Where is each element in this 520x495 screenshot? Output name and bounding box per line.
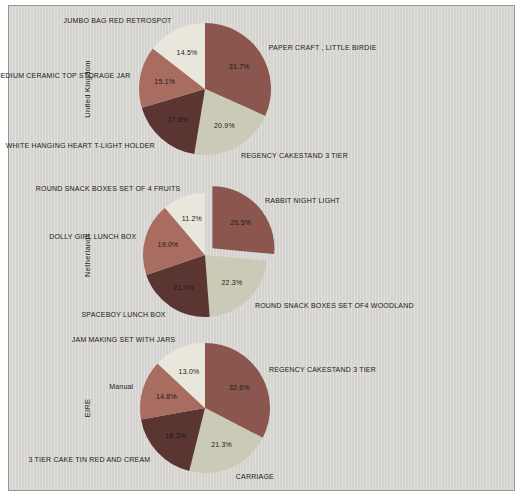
- pie-charts-svg: 31.7%PAPER CRAFT , LITTLE BIRDIE20.9%REG…: [0, 0, 520, 495]
- pct-label-netherlands-dolly-girl-lunch-box: 19.0%: [158, 241, 179, 248]
- pie-chart-netherlands: 26.5%RABBIT NIGHT LIGHT22.3%ROUND SNACK …: [36, 185, 414, 318]
- pct-label-netherlands-rabbit-night-light: 26.5%: [230, 219, 251, 226]
- product-label-united-kingdom-medium-ceramic-top-storage-jar: MEDIUM CERAMIC TOP STORAGE JAR: [0, 72, 130, 79]
- pct-label-united-kingdom-paper-craft-little-birdie: 31.7%: [229, 63, 250, 70]
- product-label-netherlands-round-snack-boxes-set-of4-woodland: ROUND SNACK BOXES SET OF4 WOODLAND: [255, 302, 414, 309]
- product-label-eire-manual: Manual: [109, 383, 133, 390]
- pie-chart-united-kingdom: 31.7%PAPER CRAFT , LITTLE BIRDIE20.9%REG…: [0, 17, 377, 159]
- pct-label-united-kingdom-medium-ceramic-top-storage-jar: 15.1%: [154, 78, 175, 85]
- product-label-eire-jam-making-set-with-jars: JAM MAKING SET WITH JARS: [72, 336, 176, 343]
- pct-label-eire-3-tier-cake-tin-red-and-cream: 18.3%: [165, 432, 186, 439]
- product-label-united-kingdom-regency-cakestand-3-tier: REGENCY CAKESTAND 3 TIER: [241, 152, 348, 159]
- pct-label-netherlands-spaceboy-lunch-box: 21.0%: [173, 284, 194, 291]
- pct-label-netherlands-round-snack-boxes-set-of4-woodland: 22.3%: [221, 279, 242, 286]
- country-axis-label-united-kingdom: United Kingdom: [83, 60, 92, 118]
- country-axis-label-eire: EIRE: [83, 399, 92, 418]
- product-label-netherlands-dolly-girl-lunch-box: DOLLY GIRL LUNCH BOX: [49, 233, 136, 240]
- pct-label-eire-manual: 14.8%: [156, 393, 177, 400]
- product-label-netherlands-spaceboy-lunch-box: SPACEBOY LUNCH BOX: [81, 311, 165, 318]
- pct-label-eire-regency-cakestand-3-tier: 32.6%: [229, 384, 250, 391]
- product-label-united-kingdom-white-hanging-heart-t-light-holder: WHITE HANGING HEART T-LIGHT HOLDER: [6, 142, 155, 149]
- product-label-netherlands-rabbit-night-light: RABBIT NIGHT LIGHT: [265, 197, 340, 204]
- pct-label-netherlands-round-snack-boxes-set-of-4-fruits: 11.2%: [182, 215, 202, 222]
- product-label-united-kingdom-jumbo-bag-red-retrospot: JUMBO BAG RED RETROSPOT: [64, 17, 173, 24]
- pct-label-eire-jam-making-set-with-jars: 13.0%: [179, 368, 200, 375]
- pct-label-united-kingdom-jumbo-bag-red-retrospot: 14.5%: [177, 49, 198, 56]
- product-label-netherlands-round-snack-boxes-set-of-4-fruits: ROUND SNACK BOXES SET OF 4 FRUITS: [36, 185, 181, 192]
- pct-label-united-kingdom-white-hanging-heart-t-light-holder: 17.8%: [167, 116, 188, 123]
- product-label-eire-carriage: CARRIAGE: [236, 473, 274, 480]
- country-axis-label-netherlands: Netherlands: [83, 233, 92, 277]
- product-label-eire-regency-cakestand-3-tier: REGENCY CAKESTAND 3 TIER: [269, 366, 376, 373]
- figure-page: 31.7%PAPER CRAFT , LITTLE BIRDIE20.9%REG…: [0, 0, 520, 495]
- product-label-united-kingdom-paper-craft-little-birdie: PAPER CRAFT , LITTLE BIRDIE: [269, 44, 377, 51]
- pct-label-united-kingdom-regency-cakestand-3-tier: 20.9%: [214, 122, 235, 129]
- pie-chart-eire: 32.6%REGENCY CAKESTAND 3 TIER21.3%CARRIA…: [28, 336, 376, 480]
- pct-label-eire-carriage: 21.3%: [211, 441, 232, 448]
- product-label-eire-3-tier-cake-tin-red-and-cream: 3 TIER CAKE TIN RED AND CREAM: [28, 456, 150, 463]
